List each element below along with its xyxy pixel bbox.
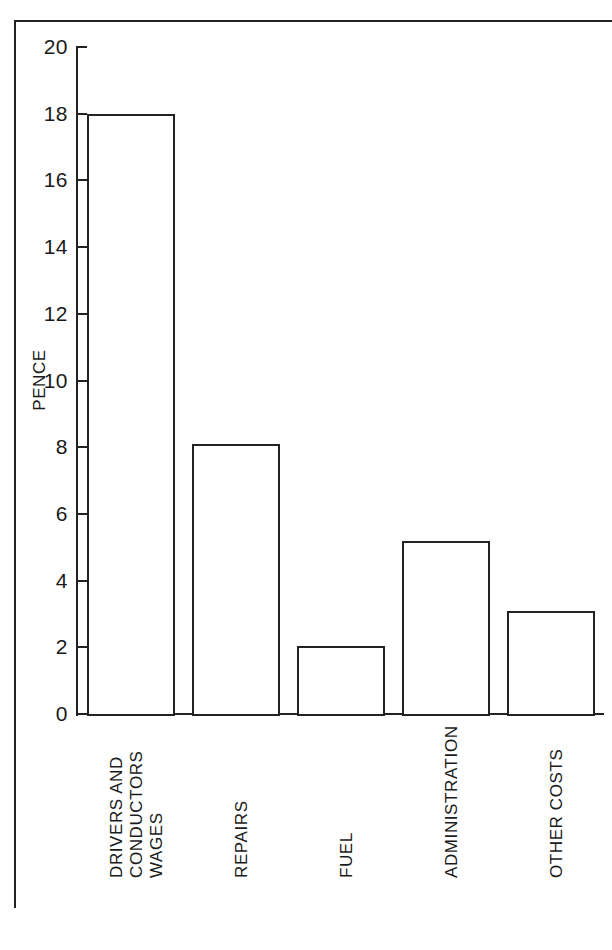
bar (87, 114, 175, 716)
y-axis-tick (76, 646, 87, 648)
bar (507, 611, 595, 716)
y-axis-tick (76, 46, 87, 48)
y-axis-tick-label: 0 (0, 703, 68, 724)
x-axis-label: OTHER COSTS (547, 749, 567, 878)
y-axis-tick-label: 16 (0, 169, 68, 190)
y-axis-tick-label-text: 8 (6, 436, 68, 457)
y-axis-tick-label: 12 (0, 303, 68, 324)
y-axis-tick (76, 246, 87, 248)
bar (297, 646, 385, 716)
x-axis-label: REPAIRS (232, 800, 252, 878)
bar (402, 541, 490, 716)
y-axis-line (76, 47, 78, 716)
y-axis-tick (76, 380, 87, 382)
y-axis-tick-label: 4 (0, 570, 68, 591)
y-axis-tick-label: 18 (0, 103, 68, 124)
bar-chart: PENCE 20181614121086420 DRIVERS ANDCONDU… (0, 0, 612, 950)
y-axis-tick-label-text: 20 (6, 36, 68, 57)
y-axis-tick-label-text: 16 (6, 169, 68, 190)
y-axis-tick-label-text: 4 (6, 570, 68, 591)
y-axis-tick-label-text: 14 (6, 236, 68, 257)
y-axis-tick (76, 513, 87, 515)
x-axis-label: ADMINISTRATION (442, 725, 462, 878)
y-axis-tick-label-text: 2 (6, 636, 68, 657)
y-axis-tick-label: 20 (0, 36, 68, 57)
y-axis-tick-label: 14 (0, 236, 68, 257)
y-axis-tick (76, 713, 87, 715)
y-axis-tick (76, 446, 87, 448)
y-axis-tick-label-text: 0 (6, 703, 68, 724)
x-axis-label: CONDUCTORS (127, 750, 147, 878)
x-axis-label: FUEL (337, 832, 357, 878)
y-axis-tick-label: 10 (0, 370, 68, 391)
y-axis-tick (76, 113, 87, 115)
bar (192, 444, 280, 716)
y-axis-tick-label-text: 6 (6, 503, 68, 524)
y-axis-tick (76, 580, 87, 582)
y-axis-tick-label-text: 18 (6, 103, 68, 124)
x-axis-label: WAGES (147, 812, 167, 878)
y-axis-tick-label: 2 (0, 636, 68, 657)
x-axis-label: DRIVERS AND (107, 756, 127, 878)
y-axis-tick-label: 6 (0, 503, 68, 524)
y-axis-tick (76, 313, 87, 315)
y-axis-tick (76, 179, 87, 181)
y-axis-tick-label-text: 10 (6, 370, 68, 391)
y-axis-tick-label-text: 12 (6, 303, 68, 324)
y-axis-tick-label: 8 (0, 436, 68, 457)
